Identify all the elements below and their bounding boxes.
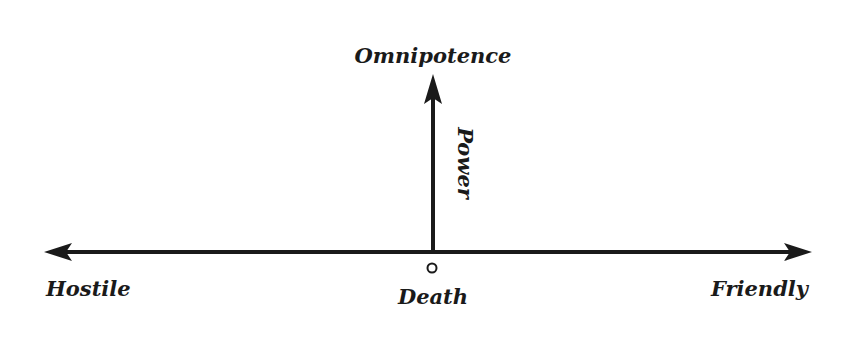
omnipotence-label: Omnipotence	[355, 45, 512, 66]
death-label: Death	[398, 286, 468, 307]
hostile-label: Hostile	[46, 278, 131, 299]
friendly-label: Friendly	[711, 278, 808, 299]
origin-circle-icon	[428, 264, 437, 273]
diagram-canvas: Omnipotence Power Hostile Death Friendly	[0, 0, 855, 361]
power-axis-label: Power	[455, 127, 476, 199]
